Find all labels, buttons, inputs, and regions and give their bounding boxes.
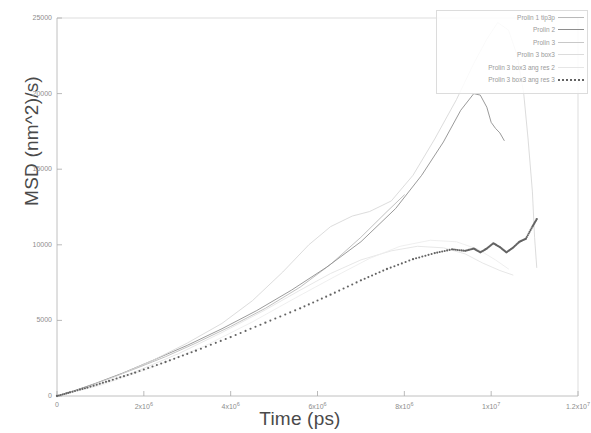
legend-item: Prolin 1 tip3p (437, 11, 587, 24)
y-tick-label: 10000 (10, 241, 52, 248)
x-axis-title: Time (ps) (150, 408, 450, 430)
x-tick-label: 8x106 (379, 401, 429, 410)
legend-color-swatch (558, 13, 584, 21)
legend-item: Prolin 3 box3 ang res 3 (437, 74, 587, 87)
legend-item: Prolin 2 (437, 24, 587, 37)
legend-item-label: Prolin 3 box3 ang res 3 (488, 76, 555, 83)
legend-item-label: Prolin 3 (533, 39, 555, 46)
x-tick-label: 1x107 (466, 401, 516, 410)
msd-line-chart: MSD (nm^2)/s) Time (ps) 0500010000150002… (0, 0, 591, 433)
y-axis-title: MSD (nm^2)/s) (21, 21, 43, 261)
legend-item-label: Prolin 2 (533, 26, 555, 33)
legend-item: Prolin 3 box3 ang res 2 (437, 61, 587, 74)
x-tick-label: 0 (32, 401, 82, 408)
chart-legend: Prolin 1 tip3pProlin 2Prolin 3Prolin 3 b… (436, 10, 588, 94)
legend-color-swatch (558, 38, 584, 46)
legend-item-label: Prolin 3 box3 (517, 51, 555, 58)
y-tick-label: 0 (10, 392, 52, 399)
legend-color-swatch (558, 51, 584, 59)
legend-item-label: Prolin 1 tip3p (517, 14, 555, 21)
legend-color-swatch (558, 76, 584, 84)
x-tick-label: 6x106 (293, 401, 343, 410)
legend-item: Prolin 3 (437, 36, 587, 49)
x-tick-label: 4x106 (206, 401, 256, 410)
y-tick-label: 25000 (10, 14, 52, 21)
x-tick-label: 1.2x107 (553, 401, 591, 410)
legend-item-label: Prolin 3 box3 ang res 2 (488, 64, 555, 71)
legend-color-swatch (558, 63, 584, 71)
series-line (57, 94, 504, 396)
legend-color-swatch (558, 26, 584, 34)
y-tick-label: 20000 (10, 90, 52, 97)
y-tick-label: 15000 (10, 165, 52, 172)
series-line (57, 195, 404, 396)
legend-item: Prolin 3 box3 (437, 49, 587, 62)
series-line (57, 246, 513, 396)
x-tick-label: 2x106 (119, 401, 169, 410)
y-tick-label: 5000 (10, 316, 52, 323)
